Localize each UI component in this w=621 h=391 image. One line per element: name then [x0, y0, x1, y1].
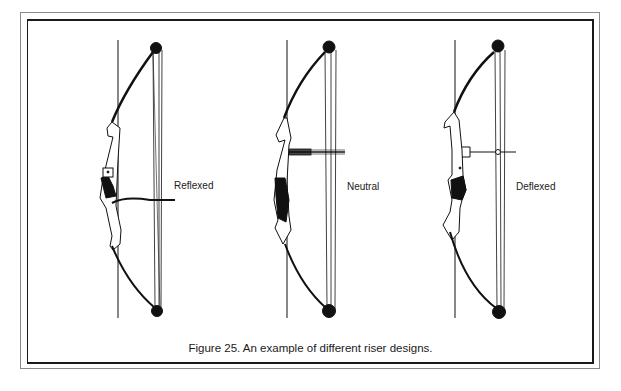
- deflexed-bow: [443, 40, 516, 319]
- reflexed-label: Reflexed: [174, 180, 213, 191]
- neutral-bow: [274, 40, 345, 318]
- reflexed-bow: [100, 40, 175, 318]
- riser-designs-illustration: [0, 0, 621, 391]
- neutral-label: Neutral: [347, 181, 379, 192]
- deflexed-label: Deflexed: [516, 181, 555, 192]
- figure-caption: Figure 25. An example of different riser…: [0, 342, 621, 354]
